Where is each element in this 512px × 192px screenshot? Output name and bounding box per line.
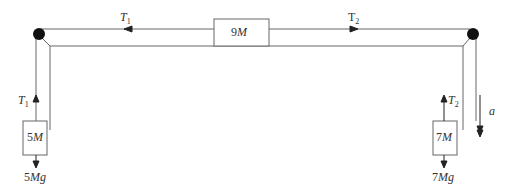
right-pulley-icon — [467, 28, 479, 40]
t1-left-label: T1 — [18, 93, 29, 109]
t1-top-label: T1 — [120, 10, 131, 26]
t2-top-label: T2 — [348, 10, 359, 26]
weight-7mg-label: 7Mg — [432, 170, 454, 185]
diagram-canvas — [0, 0, 512, 192]
acceleration-label: a — [489, 104, 495, 119]
block-9m-label: 9M — [231, 25, 247, 40]
t1-left-arrow-icon — [33, 95, 39, 102]
t2-right-arrow-icon — [441, 95, 447, 102]
t1-top-arrow-icon — [124, 26, 132, 32]
block-5m-label: 5M — [27, 130, 43, 145]
strings — [36, 34, 476, 121]
t2-top-arrow-icon — [350, 26, 358, 32]
weight-right-arrow-icon — [441, 161, 447, 168]
weight-5mg-label: 5Mg — [24, 170, 46, 185]
t2-right-label: T2 — [448, 93, 459, 109]
left-pulley-icon — [33, 28, 45, 40]
block-7m-label: 7M — [436, 130, 452, 145]
weight-left-arrow-icon — [33, 161, 39, 168]
arrows — [33, 26, 483, 168]
